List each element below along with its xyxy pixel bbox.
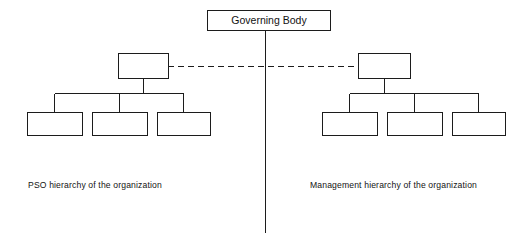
governing-body-node[interactable]: Governing Body (208, 11, 331, 31)
org-chart-diagram: Governing Body (0, 0, 525, 236)
left-branch-caption: PSO hierarchy of the organization (28, 180, 162, 190)
management-child-box-2[interactable] (388, 113, 443, 136)
pso-child-box-3[interactable] (158, 113, 211, 136)
governing-body-label: Governing Body (231, 14, 307, 26)
pso-parent-box[interactable] (119, 54, 169, 79)
left-branch-group (28, 54, 211, 136)
right-branch-group (323, 54, 506, 136)
management-child-box-3[interactable] (453, 113, 506, 136)
management-parent-box[interactable] (359, 54, 411, 79)
pso-child-box-2[interactable] (93, 113, 148, 136)
diagram-canvas: Governing Body (0, 0, 525, 236)
pso-child-box-1[interactable] (28, 113, 83, 136)
right-branch-caption: Management hierarchy of the organization (310, 180, 477, 190)
management-child-box-1[interactable] (323, 113, 378, 136)
